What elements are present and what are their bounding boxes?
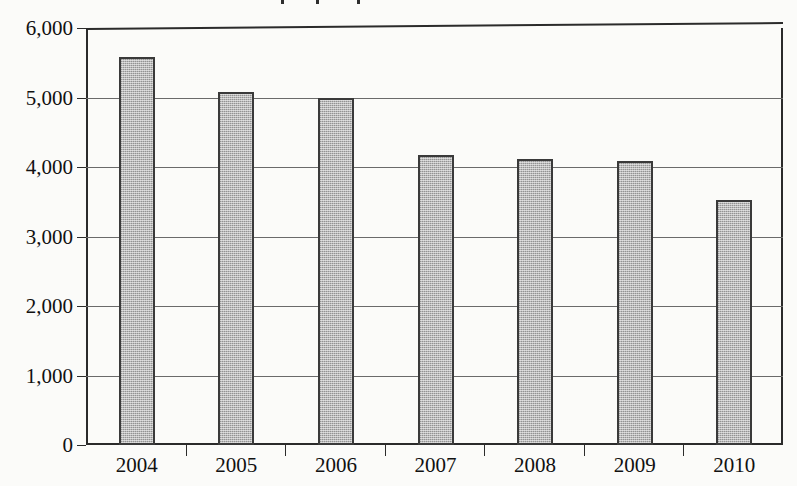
y-axis-tick <box>77 98 86 99</box>
x-axis-tick <box>385 445 386 456</box>
ink-speck <box>316 0 319 4</box>
y-axis-tick <box>77 28 86 29</box>
bar-2007 <box>418 155 454 446</box>
x-axis-tick <box>584 445 585 456</box>
y-axis-label: 2,000 <box>26 296 73 317</box>
plot-border-top-skewed <box>86 22 783 30</box>
y-axis-label: 6,000 <box>26 18 73 39</box>
cropped-title-remnant <box>0 0 797 12</box>
plot-area: 01,0002,0003,0004,0005,0006,000 <box>86 28 783 445</box>
y-axis-tick <box>77 306 86 307</box>
x-axis-tick <box>683 445 684 456</box>
bar-2008 <box>517 159 553 445</box>
ink-speck <box>357 0 360 4</box>
bar-2004 <box>119 57 155 445</box>
x-axis-tick <box>484 445 485 456</box>
x-axis-tick <box>285 445 286 456</box>
x-axis-label-2004: 2004 <box>116 455 158 476</box>
x-axis-label-2007: 2007 <box>415 455 457 476</box>
y-axis-label: 0 <box>63 435 74 456</box>
bar-2005 <box>218 92 254 445</box>
y-axis-label: 3,000 <box>26 226 73 247</box>
y-axis-label: 5,000 <box>26 87 73 108</box>
x-axis-label-2010: 2010 <box>713 455 755 476</box>
y-axis-label: 1,000 <box>26 365 73 386</box>
y-axis-tick <box>77 167 86 168</box>
y-axis-tick <box>77 376 86 377</box>
x-axis-label-2006: 2006 <box>315 455 357 476</box>
bar-2006 <box>318 98 354 446</box>
ink-speck <box>281 0 284 4</box>
y-axis-label: 4,000 <box>26 157 73 178</box>
bar-2009 <box>617 161 653 445</box>
y-axis-tick <box>77 445 86 446</box>
x-axis-tick <box>186 445 187 456</box>
y-axis-tick <box>77 237 86 238</box>
gridline <box>86 98 783 99</box>
x-axis-label-2005: 2005 <box>215 455 257 476</box>
x-axis-label-2008: 2008 <box>514 455 556 476</box>
x-axis-label-2009: 2009 <box>614 455 656 476</box>
chart-figure: 01,0002,0003,0004,0005,0006,000 20042005… <box>0 0 797 486</box>
bar-2010 <box>716 200 752 445</box>
